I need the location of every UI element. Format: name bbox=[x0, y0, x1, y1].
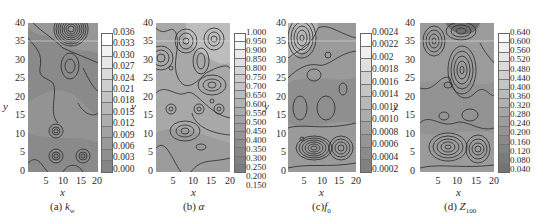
xtick: 20 bbox=[222, 176, 238, 186]
x-axis-label: x bbox=[319, 186, 324, 198]
panel-caption-c: (c)f0 bbox=[312, 200, 331, 215]
ytick: 0 bbox=[397, 166, 415, 176]
ytick: 35 bbox=[268, 36, 286, 46]
ytick: 5 bbox=[135, 147, 153, 157]
colorbar-tick: 0.0002 bbox=[372, 165, 398, 174]
x-axis-label: x bbox=[191, 186, 196, 198]
contour-plot-d bbox=[420, 23, 494, 172]
colorbar-tick: 0.0006 bbox=[372, 140, 398, 149]
xtick: 10 bbox=[55, 176, 71, 186]
colorbar-tick: 0.0022 bbox=[372, 40, 398, 49]
caption-var: α bbox=[199, 200, 205, 212]
xtick: 5 bbox=[165, 176, 181, 186]
ytick: 0 bbox=[7, 166, 25, 176]
caption-sub: w bbox=[70, 207, 75, 215]
panel-caption-b: (b) α bbox=[183, 200, 204, 212]
caption-prefix: (a) bbox=[50, 200, 62, 212]
ytick: 10 bbox=[7, 129, 25, 139]
ytick: 40 bbox=[397, 18, 415, 28]
x-axis-label: x bbox=[60, 186, 65, 198]
ytick: 5 bbox=[397, 147, 415, 157]
colorbar-tick: 0.036 bbox=[113, 28, 134, 37]
ytick: 30 bbox=[268, 55, 286, 65]
colorbar-tick: 0.024 bbox=[113, 74, 134, 83]
panel-caption-a: (a) kw bbox=[50, 200, 75, 215]
ytick: 25 bbox=[135, 73, 153, 83]
colorbar-tick: 0.030 bbox=[113, 51, 134, 60]
ytick: 15 bbox=[135, 110, 153, 120]
ytick: 35 bbox=[135, 36, 153, 46]
colorbar-tick: 0.0024 bbox=[372, 28, 398, 37]
xtick: 10 bbox=[449, 176, 465, 186]
colorbar-tick: 0.0008 bbox=[372, 128, 398, 137]
xtick: 15 bbox=[331, 176, 347, 186]
ytick: 40 bbox=[268, 18, 286, 28]
panel-d: 40 35 30 25 20 15 10 5 0 y bbox=[400, 0, 540, 220]
xtick: 10 bbox=[314, 176, 330, 186]
xtick: 5 bbox=[430, 176, 446, 186]
y-axis-label: y bbox=[3, 100, 8, 112]
x-axis-label: x bbox=[456, 186, 461, 198]
xtick: 15 bbox=[73, 176, 89, 186]
xtick: 15 bbox=[468, 176, 484, 186]
colorbar-tick: 0.006 bbox=[113, 142, 134, 151]
colorbar-tick: 0.0004 bbox=[372, 153, 398, 162]
colorbar-tick: 0.0014 bbox=[372, 90, 398, 99]
y-axis-label: y bbox=[393, 100, 398, 112]
caption-sub: 0 bbox=[327, 207, 331, 215]
ytick: 10 bbox=[397, 129, 415, 139]
ytick: 20 bbox=[268, 92, 286, 102]
panel-c: 40 35 30 25 20 15 10 5 0 y bbox=[268, 0, 403, 220]
xtick: 15 bbox=[203, 176, 219, 186]
colorbar-c bbox=[360, 33, 372, 173]
ytick: 20 bbox=[7, 92, 25, 102]
xtick: 5 bbox=[296, 176, 312, 186]
ytick: 30 bbox=[135, 55, 153, 65]
xtick: 20 bbox=[348, 176, 364, 186]
ytick: 5 bbox=[268, 147, 286, 157]
colorbar-tick: 0.000 bbox=[113, 165, 134, 174]
caption-prefix: (c) bbox=[312, 200, 324, 212]
ytick: 30 bbox=[7, 55, 25, 65]
colorbar-tick: 0.040 bbox=[510, 165, 530, 174]
panel-b: 40 35 30 25 20 15 10 5 0 y bbox=[133, 0, 268, 220]
colorbar-tick: 0.150 bbox=[246, 181, 266, 190]
panel-caption-d: (d) Z100 bbox=[444, 200, 476, 215]
colorbar-tick: 0.027 bbox=[113, 62, 134, 71]
ytick: 15 bbox=[268, 110, 286, 120]
xtick: 20 bbox=[89, 176, 105, 186]
ytick: 10 bbox=[268, 129, 286, 139]
colorbar-tick: 0.0018 bbox=[372, 65, 398, 74]
ytick: 40 bbox=[135, 18, 153, 28]
ytick: 20 bbox=[397, 92, 415, 102]
xtick: 5 bbox=[38, 176, 54, 186]
colorbar-a bbox=[101, 33, 113, 173]
colorbar-tick: 0.012 bbox=[113, 119, 134, 128]
ytick: 10 bbox=[135, 129, 153, 139]
ytick: 15 bbox=[7, 110, 25, 120]
ytick: 30 bbox=[397, 55, 415, 65]
ytick: 20 bbox=[135, 92, 153, 102]
ytick: 0 bbox=[135, 166, 153, 176]
caption-sub: 100 bbox=[466, 207, 477, 215]
contour-plot-b bbox=[156, 23, 230, 172]
panel-a: 40 35 30 25 20 15 10 5 0 y bbox=[0, 0, 135, 220]
y-axis-label: y bbox=[264, 100, 269, 112]
ytick: 40 bbox=[7, 18, 25, 28]
colorbar-labels-d: 0.6400.6000.5600.5200.4800.4400.4000.360… bbox=[510, 28, 530, 174]
xtick: 10 bbox=[185, 176, 201, 186]
ytick: 15 bbox=[397, 110, 415, 120]
xtick: 20 bbox=[486, 176, 502, 186]
y-axis-label: y bbox=[131, 100, 136, 112]
colorbar-tick: 0.0016 bbox=[372, 78, 398, 87]
ytick: 35 bbox=[397, 36, 415, 46]
colorbar-tick: 0.002 bbox=[372, 53, 398, 62]
ytick: 0 bbox=[268, 166, 286, 176]
contour-plot-c bbox=[288, 23, 356, 172]
ytick: 25 bbox=[7, 73, 25, 83]
colorbar-tick: 0.0010 bbox=[372, 115, 398, 124]
colorbar-tick: 0.021 bbox=[113, 85, 134, 94]
ytick: 35 bbox=[7, 36, 25, 46]
caption-prefix: (d) bbox=[444, 200, 457, 212]
colorbar-d bbox=[498, 33, 510, 173]
